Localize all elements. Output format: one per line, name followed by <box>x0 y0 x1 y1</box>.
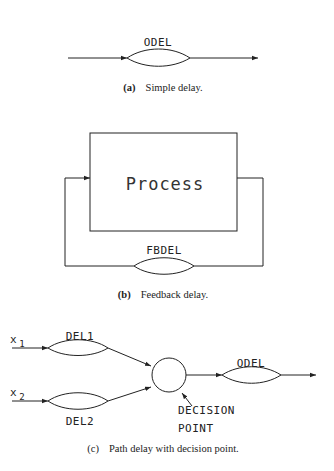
delay-diagrams: ODEL (a) Simple delay. Process FBDEL (b)… <box>0 0 334 471</box>
caption-a-text: Simple delay. <box>146 82 203 93</box>
del2-to-decision-arrow <box>108 387 151 401</box>
input1-label: x1 <box>10 333 25 349</box>
feedback-in-line <box>65 178 134 266</box>
del2-label: DEL2 <box>66 415 95 428</box>
caption-b-letter: (b) <box>118 289 131 301</box>
fbdel-delay-lens <box>134 258 194 275</box>
caption-b: (b) Feedback delay. <box>118 284 208 301</box>
caption-a-letter: (a) <box>123 82 136 94</box>
caption-a: (a) Simple delay. <box>123 77 202 94</box>
caption-c-letter: (c) <box>87 443 99 455</box>
panel-a-simple-delay: ODEL (a) Simple delay. <box>68 36 258 94</box>
decision-label-line2: POINT <box>178 422 214 435</box>
panel-b-feedback-delay: Process FBDEL (b) Feedback delay. <box>65 133 263 301</box>
panel-c-path-delay: x1 DEL1 x2 DEL2 ODEL DECISION POINT (c) … <box>10 330 316 455</box>
del1-to-decision-arrow <box>108 348 151 366</box>
process-label: Process <box>126 174 205 194</box>
input2-label: x2 <box>10 386 25 402</box>
caption-c: (c) Path delay with decision point. <box>87 438 238 455</box>
decision-point-circle <box>152 358 186 392</box>
fbdel-label: FBDEL <box>146 244 182 257</box>
decision-label-line1: DECISION <box>178 404 235 417</box>
del2-delay-lens <box>48 393 108 410</box>
del1-label: DEL1 <box>66 330 95 343</box>
output-odel-label: ODEL <box>237 357 266 370</box>
feedback-out-line <box>194 178 263 266</box>
odel-delay-lens <box>127 49 190 66</box>
caption-b-text: Feedback delay. <box>141 289 209 300</box>
caption-c-text: Path delay with decision point. <box>109 443 239 454</box>
odel-label: ODEL <box>144 36 173 49</box>
